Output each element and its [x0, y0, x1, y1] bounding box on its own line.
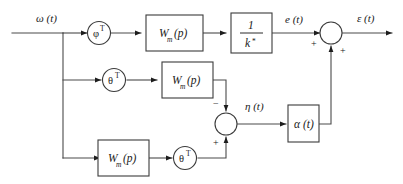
block-inverse-k-numerator: 1	[248, 19, 254, 31]
block-wm-top-subscript: m	[167, 35, 173, 44]
wire-theta-bottom-to-eta-sum	[198, 137, 226, 158]
block-wm-bottom-subscript: m	[116, 160, 122, 169]
block-alpha-label: α (t)	[294, 118, 314, 131]
wire-alpha-feedback-to-output-sum	[319, 46, 331, 124]
block-theta-transpose-gain-bottom[interactable]: θ T	[174, 147, 197, 170]
block-theta-mid-superscript: T	[115, 71, 120, 80]
block-diagram-svg: W m (p) 1 k * W m (p) W m (p)	[0, 0, 403, 184]
block-theta-bottom-superscript: T	[186, 149, 191, 158]
summing-junction-output-bottom-sign: +	[340, 45, 346, 56]
block-inverse-k-star[interactable]: 1 k *	[231, 13, 272, 53]
block-phi-transpose-gain[interactable]: φ T	[88, 22, 111, 45]
block-wm-mid-arg: (p)	[187, 74, 201, 87]
signal-label-eta: η (t)	[245, 100, 264, 113]
summing-junction-output-left-sign: +	[311, 38, 317, 49]
block-wm-top[interactable]: W m (p)	[146, 15, 203, 51]
block-phi-symbol: φ	[93, 28, 99, 39]
block-wm-mid-subscript: m	[180, 82, 186, 91]
summing-junction-eta-top-sign: −	[213, 98, 219, 109]
signal-label-epsilon: ε (t)	[357, 12, 375, 25]
block-wm-mid[interactable]: W m (p)	[162, 62, 213, 98]
block-inverse-k-denominator-superscript: *	[252, 37, 256, 46]
block-wm-top-arg: (p)	[174, 27, 188, 40]
block-theta-mid-symbol: θ	[108, 75, 113, 86]
block-phi-superscript: T	[100, 24, 105, 33]
signal-label-omega: ω (t)	[36, 12, 57, 25]
block-theta-transpose-gain-mid[interactable]: θ T	[103, 69, 126, 92]
summing-junction-output[interactable]	[320, 22, 342, 44]
summing-junction-eta[interactable]	[215, 113, 237, 135]
block-alpha[interactable]: α (t)	[288, 105, 319, 142]
block-wm-bottom[interactable]: W m (p)	[98, 140, 149, 176]
summing-junction-eta-bottom-sign: +	[213, 137, 219, 148]
block-diagram-canvas: W m (p) 1 k * W m (p) W m (p)	[0, 0, 403, 184]
block-inverse-k-denominator: k	[245, 37, 251, 49]
block-wm-bottom-arg: (p)	[123, 152, 137, 165]
block-theta-bottom-symbol: θ	[179, 153, 184, 164]
signal-label-e: e (t)	[285, 13, 303, 26]
